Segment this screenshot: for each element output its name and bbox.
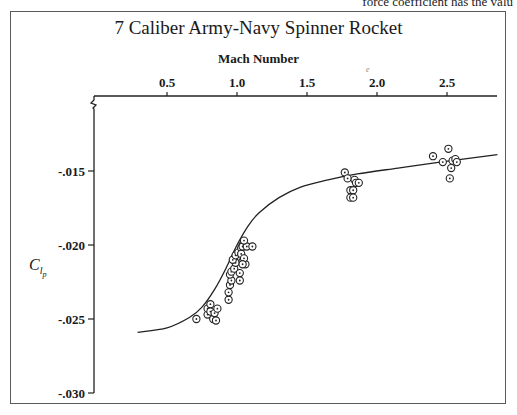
- marker-dot: [228, 299, 230, 301]
- marker-dot: [240, 253, 242, 255]
- marker-dot: [442, 161, 444, 163]
- marker-dot: [448, 148, 450, 150]
- data-point-marker: [236, 270, 243, 277]
- data-point-marker: [236, 277, 243, 284]
- marker-dot: [228, 291, 230, 293]
- data-point-marker: [429, 153, 436, 160]
- marker-dot: [243, 240, 245, 242]
- fitted-curve: [138, 155, 498, 333]
- plot-area: 0.51.01.52.02.5-.015-.020-.025-.030 e: [0, 0, 517, 415]
- data-point-marker: [249, 243, 256, 250]
- data-point-marker: [239, 261, 246, 268]
- marker-dot: [358, 182, 360, 184]
- data-points: [193, 145, 461, 324]
- marker-dot: [344, 172, 346, 174]
- data-point-marker: [350, 187, 357, 194]
- x-tick-label: 1.5: [299, 75, 316, 90]
- marker-dot: [210, 303, 212, 305]
- marker-dot: [246, 246, 248, 248]
- data-point-marker: [448, 164, 455, 171]
- marker-dot: [432, 155, 434, 157]
- marker-dot: [239, 280, 241, 282]
- marker-dot: [215, 320, 217, 322]
- annotations: e: [366, 65, 370, 74]
- data-point-marker: [439, 159, 446, 166]
- marker-dot: [449, 178, 451, 180]
- data-point-marker: [214, 305, 221, 312]
- x-tick-label: 1.0: [229, 75, 245, 90]
- marker-dot: [243, 257, 245, 259]
- y-tick-label: -.025: [58, 312, 86, 327]
- y-tick-label: -.015: [58, 164, 86, 179]
- marker-dot: [347, 178, 349, 180]
- data-point-marker: [240, 237, 247, 244]
- y-tick-label: -.020: [58, 238, 85, 253]
- marker-dot: [231, 280, 233, 282]
- marker-dot: [214, 312, 216, 314]
- marker-dot: [252, 246, 254, 248]
- data-point-marker: [225, 289, 232, 296]
- data-point-marker: [344, 175, 351, 182]
- data-point-marker: [225, 296, 232, 303]
- data-point-marker: [207, 301, 214, 308]
- x-tick-label: 2.5: [439, 75, 456, 90]
- x-tick-label: 2.0: [369, 75, 385, 90]
- data-point-marker: [350, 194, 357, 201]
- axes: 0.51.01.52.02.5-.015-.020-.025-.030: [58, 75, 497, 401]
- data-point-marker: [212, 317, 219, 324]
- data-point-marker: [453, 159, 460, 166]
- marker-dot: [196, 318, 198, 320]
- data-point-marker: [446, 175, 453, 182]
- marker-dot: [456, 161, 458, 163]
- fitted-curve-path: [138, 155, 498, 333]
- marker-dot: [450, 167, 452, 169]
- marker-dot: [233, 268, 235, 270]
- marker-dot: [239, 272, 241, 274]
- marker-dot: [352, 197, 354, 199]
- marker-dot: [232, 259, 234, 261]
- x-tick-label: 0.5: [159, 75, 176, 90]
- marker-dot: [352, 189, 354, 191]
- marker-dot: [217, 308, 219, 310]
- annotation-e: e: [366, 65, 370, 74]
- data-point-marker: [355, 179, 362, 186]
- marker-dot: [242, 263, 244, 265]
- data-point-marker: [193, 315, 200, 322]
- data-point-marker: [445, 145, 452, 152]
- y-tick-label: -.030: [58, 386, 85, 401]
